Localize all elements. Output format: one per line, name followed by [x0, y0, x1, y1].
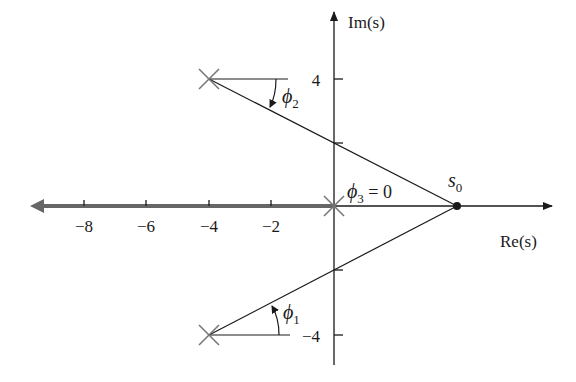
angle-label-phi1: ϕ1 — [283, 301, 300, 327]
test-point-label: s0 — [448, 169, 462, 195]
vector-pole1-to-s0 — [209, 206, 457, 335]
angle-label-phi2: ϕ2 — [282, 85, 299, 111]
tick-label-4: 4 — [312, 71, 321, 90]
real-axis-label: Re(s) — [500, 232, 537, 251]
tick-label-neg6: −6 — [137, 217, 155, 236]
locus-arrow-icon — [30, 199, 44, 213]
angle-arc-phi1 — [272, 306, 279, 335]
root-locus-diagram: −8 −6 −4 −2 4 −4 Im(s) Re(s) ϕ2 ϕ1 ϕ3 = … — [0, 0, 576, 382]
angle-arc-phi2 — [270, 79, 276, 107]
test-point-s0 — [453, 202, 461, 210]
imag-axis-label: Im(s) — [348, 13, 385, 32]
tick-label-neg2: −2 — [262, 217, 280, 236]
vector-pole2-to-s0 — [209, 79, 457, 206]
angle-label-phi3: ϕ3 = 0 — [347, 180, 392, 206]
tick-label-neg8: −8 — [75, 217, 93, 236]
tick-label-neg4-imag: −4 — [302, 327, 321, 346]
tick-label-neg4: −4 — [200, 217, 219, 236]
